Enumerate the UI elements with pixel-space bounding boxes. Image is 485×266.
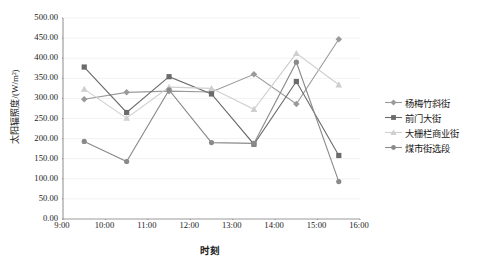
x-tick-label: 9:00 (42, 220, 82, 230)
chart-svg (62, 17, 361, 220)
data-point (82, 64, 87, 69)
legend-item-杨梅竹斜街[interactable]: 杨梅竹斜街 (384, 95, 485, 110)
data-point (336, 153, 341, 158)
data-point (209, 91, 214, 96)
legend-item-大栅栏商业街[interactable]: 大栅栏商业街 (384, 125, 485, 140)
chart-legend: 杨梅竹斜街前门大街大栅栏商业街煤市街选段 (384, 95, 485, 155)
legend-label: 前门大街 (405, 111, 441, 125)
chart-container: 太阳辐照度/(W/m²) 时刻 0.0050.00100.00150.00200… (0, 0, 485, 266)
y-tick-label: 250.00 (12, 114, 58, 122)
legend-marker-icon (384, 142, 403, 153)
y-tick-label: 400.00 (12, 53, 58, 61)
legend-label: 杨梅竹斜街 (405, 96, 450, 110)
x-tick-label: 13:00 (212, 220, 252, 230)
data-point (294, 60, 299, 65)
series-杨梅竹斜街 (81, 36, 342, 107)
legend-marker-icon (384, 97, 403, 108)
legend-marker-icon (384, 127, 403, 138)
x-tick-label: 16:00 (339, 220, 379, 230)
y-tick-label: 150.00 (12, 154, 58, 162)
y-tick-label: 500.00 (12, 13, 58, 21)
data-point (123, 89, 130, 96)
data-point (391, 145, 396, 150)
data-point (336, 179, 341, 184)
data-point (294, 79, 299, 84)
data-point (336, 36, 343, 43)
y-tick-label: 300.00 (12, 93, 58, 101)
data-point (251, 141, 256, 146)
data-point (124, 110, 129, 115)
legend-item-前门大街[interactable]: 前门大街 (384, 110, 485, 125)
data-point (335, 81, 342, 87)
y-tick-label: 350.00 (12, 73, 58, 81)
x-tick-label: 11:00 (127, 220, 167, 230)
legend-label: 大栅栏商业街 (405, 126, 459, 140)
x-axis-tick-labels: 9:0010:0011:0012:0013:0014:0015:0016:00 (0, 218, 485, 238)
x-tick-label: 15:00 (297, 220, 337, 230)
data-point (391, 115, 396, 120)
series-line (84, 62, 339, 181)
legend-marker-icon (384, 112, 403, 123)
plot-area (62, 17, 359, 218)
data-point (124, 159, 129, 164)
data-point (123, 115, 130, 121)
x-tick-label: 12:00 (169, 220, 209, 230)
x-tick-label: 10:00 (84, 220, 124, 230)
data-point (81, 86, 88, 92)
y-tick-label: 200.00 (12, 134, 58, 142)
data-point (293, 50, 300, 56)
x-axis-title: 时刻 (150, 243, 270, 257)
legend-item-煤市街选段[interactable]: 煤市街选段 (384, 140, 485, 155)
y-tick-label: 50.00 (12, 194, 58, 202)
data-point (82, 139, 87, 144)
data-point (81, 96, 88, 103)
data-point (166, 74, 171, 79)
series-大栅栏商业街 (81, 50, 342, 121)
legend-label: 煤市街选段 (405, 141, 450, 155)
data-point (166, 87, 171, 92)
x-tick-label: 14:00 (254, 220, 294, 230)
data-point (293, 101, 300, 108)
data-point (209, 140, 214, 145)
data-point (251, 71, 258, 78)
y-tick-label: 450.00 (12, 33, 58, 41)
data-point (391, 100, 397, 106)
y-tick-label: 100.00 (12, 174, 58, 182)
